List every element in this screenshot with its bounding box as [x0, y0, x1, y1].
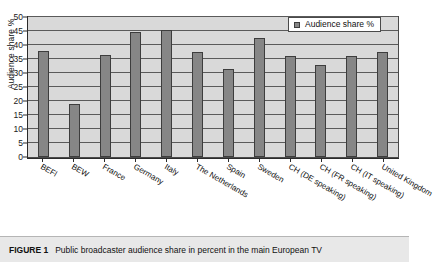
bar-slot [28, 17, 59, 157]
x-label-slot: CH (IT speaking) [337, 161, 368, 225]
x-label-slot: BEW [58, 161, 89, 225]
figure-caption-bar: FIGURE 1 Public broadcaster audience sha… [0, 236, 409, 262]
x-label-slot: Italy [151, 161, 182, 225]
figure-caption-text: Public broadcaster audience share in per… [55, 245, 322, 255]
bar-slot [244, 17, 275, 157]
x-axis-label-bew: BEW [70, 163, 90, 179]
bar-slot [367, 17, 398, 157]
bar-series [28, 17, 398, 157]
plot-area [27, 16, 399, 158]
bar-befl[interactable] [38, 51, 49, 157]
bar-slot [336, 17, 367, 157]
y-tick-label-30: 30 [14, 69, 23, 78]
legend-label-audience-share: Audience share % [305, 20, 374, 29]
bar-united-kingdom[interactable] [377, 52, 388, 157]
legend: Audience share % [288, 17, 381, 32]
x-axis-labels: BEFlBEWFranceGermanyItalyThe Netherlands… [27, 161, 399, 225]
x-label-slot: Spain [213, 161, 244, 225]
bar-slot [275, 17, 306, 157]
y-tick-label-20: 20 [14, 97, 23, 106]
y-tick-label-35: 35 [14, 55, 23, 64]
bar-slot [120, 17, 151, 157]
bar-slot [305, 17, 336, 157]
bar-slot [90, 17, 121, 157]
bar-the-netherlands[interactable] [192, 52, 203, 157]
chart-area: Audience share % 05101520253035404550 BE… [0, 0, 409, 228]
bar-slot [182, 17, 213, 157]
bar-ch-it-speaking[interactable] [346, 56, 357, 157]
y-tick-label-25: 25 [14, 83, 23, 92]
bar-sweden[interactable] [254, 38, 265, 157]
x-label-slot: CH (FR speaking) [306, 161, 337, 225]
bar-bew[interactable] [69, 104, 80, 157]
x-axis-label-spain: Spain [225, 163, 247, 180]
figure-caption-label: FIGURE 1 [9, 245, 48, 255]
x-label-slot: Germany [120, 161, 151, 225]
bar-italy[interactable] [161, 30, 172, 157]
y-tick-label-45: 45 [14, 27, 23, 36]
bar-ch-de-speaking[interactable] [285, 56, 296, 157]
x-label-slot: United Kingdom [368, 161, 399, 225]
bar-germany[interactable] [130, 32, 141, 157]
x-axis-label-italy: Italy [163, 163, 180, 177]
bar-slot [151, 17, 182, 157]
x-axis-label-united-kingdom: United Kingdom [380, 163, 433, 198]
bar-france[interactable] [100, 55, 111, 157]
x-label-slot: BEFl [27, 161, 58, 225]
legend-swatch-audience-share [294, 22, 300, 28]
bar-slot [59, 17, 90, 157]
x-label-slot: Sweden [244, 161, 275, 225]
x-label-slot: The Netherlands [182, 161, 213, 225]
x-label-slot: CH (DE speaking) [275, 161, 306, 225]
bar-slot [213, 17, 244, 157]
y-tick-label-15: 15 [14, 111, 23, 120]
y-axis-tick-labels: 05101520253035404550 [0, 16, 27, 158]
x-label-slot: France [89, 161, 120, 225]
bar-ch-fr-speaking[interactable] [315, 65, 326, 157]
y-tick-label-10: 10 [14, 125, 23, 134]
bar-spain[interactable] [223, 69, 234, 157]
y-tick-label-40: 40 [14, 41, 23, 50]
x-axis-label-befl: BEFl [39, 163, 58, 179]
y-axis-line [27, 16, 28, 158]
y-tick-label-50: 50 [14, 13, 23, 22]
